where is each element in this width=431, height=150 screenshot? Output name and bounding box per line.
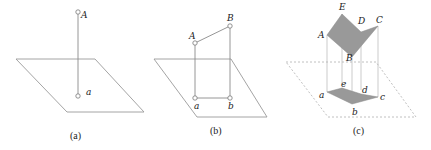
label-b: b (228, 101, 234, 111)
caption-a: (a) (70, 130, 81, 142)
polygon-abcde (327, 88, 378, 104)
point-a (193, 96, 197, 100)
label-a: a (319, 90, 324, 100)
label-D: D (357, 16, 365, 26)
projection-plane (16, 59, 144, 112)
label-E: E (338, 2, 346, 12)
label-A: A (188, 31, 196, 41)
label-e: e (341, 79, 346, 89)
point-a (76, 94, 80, 98)
label-d: d (362, 85, 368, 95)
label-B: B (345, 53, 353, 63)
panel-b: A B a b (b) (154, 13, 267, 137)
label-C: C (376, 15, 383, 25)
projection-diagram: A a (a) A B a b (b) A E D C (0, 0, 431, 150)
panel-c: A E D C B a e d c b (c) (286, 2, 416, 137)
label-b: b (352, 107, 358, 117)
segment-AB (195, 26, 230, 43)
label-A: A (80, 10, 88, 20)
label-c: c (380, 92, 385, 102)
caption-c: (c) (353, 125, 364, 137)
label-B: B (226, 13, 234, 23)
projection-plane (154, 59, 267, 117)
point-A (193, 41, 197, 45)
label-a: a (86, 87, 91, 97)
caption-b: (b) (210, 125, 222, 137)
polygon-ABCDE (327, 14, 378, 57)
label-A: A (317, 30, 325, 40)
point-B (228, 24, 232, 28)
projection-plane (286, 62, 416, 117)
label-a: a (194, 101, 199, 111)
point-b (228, 96, 232, 100)
point-A (76, 10, 80, 14)
panel-a: A a (a) (16, 10, 144, 142)
